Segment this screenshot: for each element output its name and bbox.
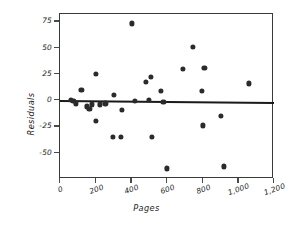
data-point [202,65,207,70]
x-tick-label: 1,000 [227,181,251,197]
x-tick-mark [202,178,203,183]
y-tick-label: 50 [42,42,52,51]
data-point [119,107,124,112]
x-tick-mark [95,178,96,183]
y-axis-title: Residuals [26,92,36,135]
data-point [199,88,204,93]
data-point [93,71,98,76]
y-tick-mark [54,99,59,100]
data-point [103,101,108,106]
data-point [148,74,153,79]
data-point [110,134,115,139]
data-point [118,134,123,139]
y-tick-mark [54,125,59,126]
data-point [218,113,223,118]
y-tick-mark [54,47,59,48]
data-point [246,81,251,86]
data-point [90,102,95,107]
y-tick-mark [54,73,59,74]
data-point [158,88,163,93]
x-tick-mark [166,178,167,183]
x-tick-label: 0 [57,184,65,194]
x-tick-mark [59,178,60,183]
x-axis-title: Pages [0,203,293,213]
y-tick-label: 0 [47,95,52,104]
data-point [73,101,78,106]
data-point [190,44,195,49]
y-tick-label: -25 [39,121,52,130]
data-point [149,134,154,139]
data-point [143,80,148,85]
data-point [200,123,205,128]
plot-frame [59,13,273,178]
x-tick-mark [273,178,274,183]
x-tick-mark [237,178,238,183]
data-point [221,164,226,169]
data-point [130,21,135,26]
data-point [161,100,166,105]
x-tick-label: 800 [195,182,212,195]
x-tick-mark [130,178,131,183]
data-point [147,98,152,103]
y-tick-mark [54,152,59,153]
y-tick-label: -50 [39,147,52,156]
data-point [79,87,84,92]
scatter-points-layer [60,14,272,177]
y-tick-label: 75 [42,16,52,25]
y-tick-mark [54,20,59,21]
x-tick-label: 400 [123,182,140,195]
y-tick-label: 25 [42,68,52,77]
data-point [111,92,116,97]
x-tick-label: 200 [88,182,105,195]
x-tick-label: 1,200 [263,181,287,197]
chart-container: Residuals 02004006008001,0001,200 755025… [0,0,293,227]
x-tick-label: 600 [159,182,176,195]
data-point [93,119,98,124]
data-point [132,99,137,104]
data-point [180,66,185,71]
data-point [164,166,169,171]
